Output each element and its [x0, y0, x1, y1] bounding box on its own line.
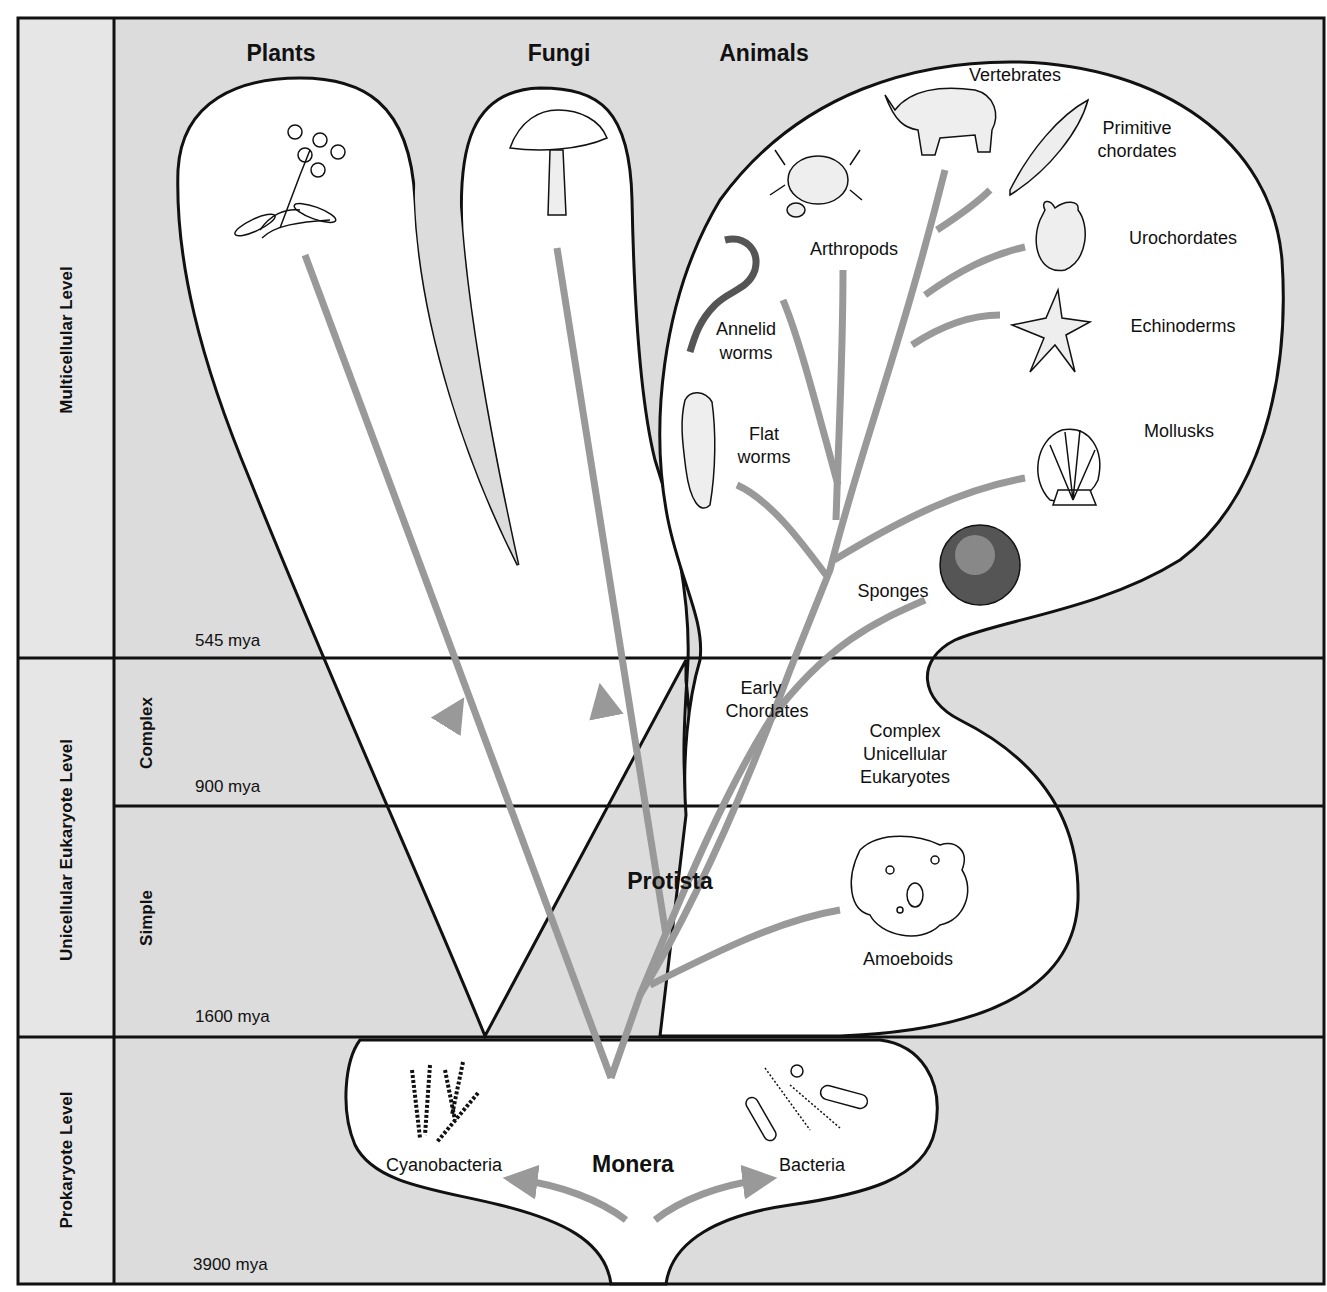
label-flat-worms-1: Flat — [749, 424, 779, 444]
level-label-prokaryote: Prokaryote Level — [57, 1091, 76, 1228]
kingdom-animals-label: Animals — [719, 40, 808, 66]
label-primitive-chordates-1: Primitive — [1102, 118, 1171, 138]
kingdom-fungi-label: Fungi — [528, 40, 591, 66]
label-primitive-chordates-2: chordates — [1097, 141, 1176, 161]
level-label-unicellular: Unicellular Eukaryote Level — [57, 739, 76, 961]
label-flat-worms-2: worms — [737, 447, 791, 467]
label-complex-unicellular-1: Complex — [869, 721, 940, 741]
label-amoeboids: Amoeboids — [863, 949, 953, 969]
label-complex-unicellular-3: Eukaryotes — [860, 767, 950, 787]
label-arthropods: Arthropods — [810, 239, 898, 259]
label-vertebrates: Vertebrates — [969, 65, 1061, 85]
sea-squirt-icon — [1036, 201, 1085, 270]
time-mark-545: 545 mya — [195, 631, 261, 650]
label-mollusks: Mollusks — [1144, 421, 1214, 441]
kingdom-monera-label: Monera — [592, 1151, 674, 1177]
sublevel-label-complex: Complex — [137, 697, 156, 769]
sublevel-label-simple: Simple — [137, 890, 156, 946]
label-bacteria: Bacteria — [779, 1155, 846, 1175]
label-sponges: Sponges — [857, 581, 928, 601]
time-mark-3900: 3900 mya — [193, 1255, 268, 1274]
arrow-fungi — [603, 700, 604, 705]
label-annelid-worms-2: worms — [719, 343, 773, 363]
label-complex-unicellular-2: Unicellular — [863, 744, 947, 764]
label-urochordates: Urochordates — [1129, 228, 1237, 248]
label-early-chordates-1: Early — [740, 678, 781, 698]
arrow-plants — [450, 712, 455, 720]
scallop-icon — [1038, 429, 1100, 505]
sponge-icon — [940, 525, 1020, 605]
kingdom-plants-label: Plants — [246, 40, 315, 66]
label-annelid-worms-1: Annelid — [716, 319, 776, 339]
label-echinoderms: Echinoderms — [1130, 316, 1235, 336]
time-mark-1600: 1600 mya — [195, 1007, 270, 1026]
time-mark-900: 900 mya — [195, 777, 261, 796]
label-early-chordates-2: Chordates — [725, 701, 808, 721]
label-cyanobacteria: Cyanobacteria — [386, 1155, 503, 1175]
kingdom-protista-label: Protista — [627, 868, 713, 894]
tree-of-life-diagram: Multicellular Level Unicellular Eukaryot… — [0, 0, 1327, 1292]
level-label-multicellular: Multicellular Level — [57, 266, 76, 413]
